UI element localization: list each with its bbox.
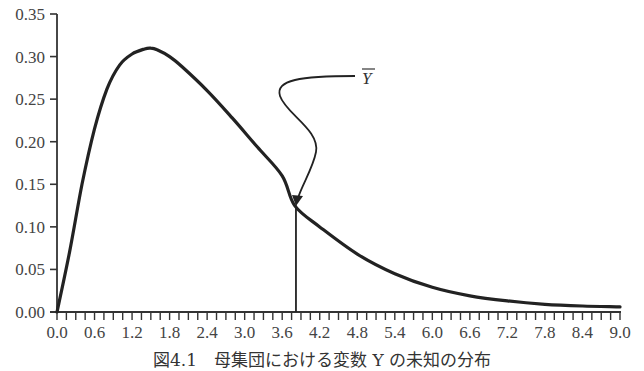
x-tick-label: 3.6 [272,323,293,342]
y-tick-label: 0.30 [15,48,45,67]
x-tick-label: 6.0 [422,323,443,342]
x-tick-label: 3.0 [234,323,255,342]
y-tick-label: 0.35 [15,5,45,24]
x-tick-label: 8.4 [572,323,594,342]
x-axis: 0.00.61.21.82.43.03.64.24.85.46.06.67.27… [46,312,630,342]
svg-text:Y: Y [362,69,373,88]
x-tick-label: 4.8 [347,323,368,342]
distribution-curve [57,48,620,312]
y-tick-label: 0.05 [15,260,45,279]
x-tick-label: 6.6 [459,323,480,342]
y-tick-label: 0.15 [15,175,45,194]
y-tick-label: 0.20 [15,133,45,152]
mean-label: Y [362,69,375,88]
x-tick-label: 7.2 [497,323,518,342]
y-tick-label: 0.10 [15,218,45,237]
x-tick-label: 4.2 [309,323,330,342]
x-tick-label: 2.4 [197,323,219,342]
mean-arrow [279,76,355,198]
x-tick-label: 1.8 [159,323,180,342]
figure-caption: 図4.1 母集団における変数 Y の未知の分布 [0,346,644,371]
x-tick-label: 5.4 [384,323,406,342]
y-axis: 0.000.050.100.150.200.250.300.35 [15,5,57,322]
y-tick-label: 0.00 [15,303,45,322]
x-tick-label: 1.2 [121,323,142,342]
x-tick-label: 0.6 [84,323,105,342]
y-tick-label: 0.25 [15,90,45,109]
x-tick-label: 7.8 [534,323,555,342]
x-tick-label: 9.0 [609,323,630,342]
x-tick-label: 0.0 [46,323,67,342]
